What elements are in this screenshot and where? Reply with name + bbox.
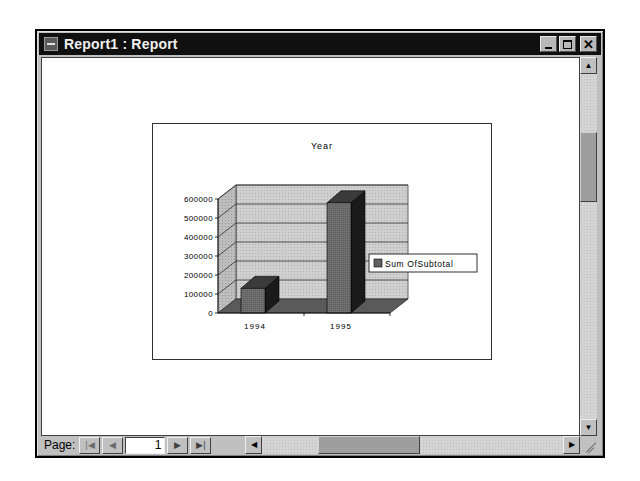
- svg-text:500000: 500000: [184, 214, 213, 223]
- page-label: Page:: [44, 438, 75, 452]
- close-icon: ✕: [583, 38, 594, 51]
- page-number-input[interactable]: [125, 437, 165, 454]
- system-menu-icon[interactable]: [44, 37, 58, 51]
- horizontal-scroll-thumb[interactable]: [318, 436, 420, 454]
- arrow-right-icon: ▶: [569, 441, 575, 449]
- previous-page-button[interactable]: ◀: [102, 437, 123, 454]
- legend-label: Sum OfSubtotal: [385, 259, 453, 269]
- maximize-icon: [563, 40, 572, 49]
- svg-text:200000: 200000: [184, 271, 213, 280]
- title-bar[interactable]: Report1 : Report ✕: [39, 33, 601, 55]
- arrow-left-icon: ◀: [251, 441, 257, 449]
- scroll-right-button[interactable]: ▶: [563, 436, 580, 454]
- maximize-button[interactable]: [559, 36, 576, 52]
- next-page-icon: ▶: [174, 441, 181, 450]
- x-tick-label: 1994: [244, 322, 266, 331]
- svg-text:600000: 600000: [184, 195, 213, 204]
- chart-title: Year: [311, 141, 333, 151]
- scroll-up-button[interactable]: ▲: [580, 57, 597, 74]
- svg-text:100000: 100000: [184, 290, 213, 299]
- arrow-down-icon: ▼: [585, 424, 593, 432]
- window-title: Report1 : Report: [64, 36, 178, 52]
- bar-chart: Year 01000002000003000004000005000006000…: [153, 124, 493, 361]
- window-controls: ✕: [540, 36, 597, 52]
- chart-frame: Year 01000002000003000004000005000006000…: [152, 123, 492, 360]
- navigation-bar: Page: |◀ ◀ ▶ ▶| ◀ ▶: [41, 436, 580, 454]
- x-tick-label: 1995: [330, 322, 352, 331]
- first-page-button[interactable]: |◀: [79, 437, 100, 454]
- bar-1995: [327, 191, 365, 313]
- next-page-button[interactable]: ▶: [167, 437, 188, 454]
- horizontal-scrollbar[interactable]: ◀ ▶: [245, 436, 580, 454]
- x-axis: 19941995: [218, 313, 390, 331]
- vertical-scrollbar[interactable]: ▲ ▼: [580, 57, 597, 436]
- first-page-icon: |◀: [85, 441, 94, 450]
- scroll-left-button[interactable]: ◀: [245, 436, 262, 454]
- minimize-button[interactable]: [540, 36, 557, 52]
- legend: Sum OfSubtotal: [369, 254, 477, 272]
- size-grip[interactable]: [580, 436, 597, 454]
- scroll-down-button[interactable]: ▼: [580, 419, 597, 436]
- svg-text:300000: 300000: [184, 252, 213, 261]
- arrow-up-icon: ▲: [585, 62, 593, 70]
- close-button[interactable]: ✕: [580, 36, 597, 52]
- svg-text:400000: 400000: [184, 233, 213, 242]
- vertical-scroll-thumb[interactable]: [580, 132, 597, 202]
- plot-area: [218, 185, 408, 313]
- legend-swatch: [374, 259, 382, 267]
- last-page-icon: ▶|: [196, 441, 205, 450]
- minimize-icon: [545, 47, 552, 49]
- svg-text:0: 0: [208, 309, 213, 318]
- last-page-button[interactable]: ▶|: [190, 437, 211, 454]
- previous-page-icon: ◀: [109, 441, 116, 450]
- y-axis: 0100000200000300000400000500000600000: [184, 195, 218, 318]
